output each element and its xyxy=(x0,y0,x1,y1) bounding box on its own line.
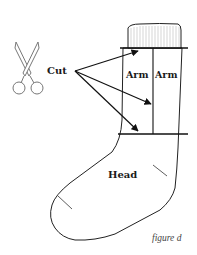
arm-right-label: Arm xyxy=(154,69,177,80)
diagram-svg: Cut Arm Arm Head figure d xyxy=(0,0,197,255)
figure-caption: figure d xyxy=(152,233,182,243)
cut-label: Cut xyxy=(47,65,67,76)
head-label: Head xyxy=(108,169,137,180)
sock-cuff xyxy=(128,24,181,49)
figure-d-sock-diagram: Cut Arm Arm Head figure d xyxy=(0,0,197,255)
scissors-icon xyxy=(13,42,43,94)
arm-left-label: Arm xyxy=(125,69,148,80)
